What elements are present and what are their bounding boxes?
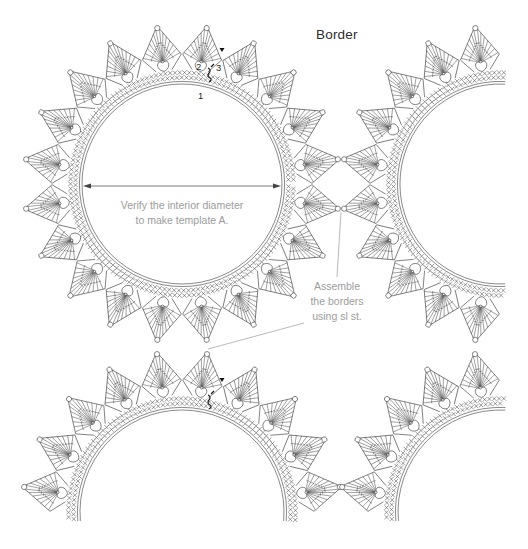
foundation-arc (79, 81, 284, 286)
treble-stitches (283, 223, 330, 271)
fan-spike (53, 383, 114, 444)
picot-loop (319, 252, 326, 259)
fan-spike (250, 383, 311, 444)
chain-loop (59, 196, 71, 209)
fan-spike (292, 182, 344, 228)
treble-stitches (183, 26, 225, 65)
picot-loop (106, 366, 113, 373)
picot-loop (291, 395, 298, 402)
treble-stitches (221, 36, 269, 83)
treble-stitches (24, 185, 63, 227)
picot-loop (354, 436, 361, 443)
picot-loop (383, 395, 390, 402)
picot-loop (107, 40, 114, 47)
diagram-title: Border (316, 27, 358, 43)
fan-spike (338, 139, 390, 185)
fan-spike (410, 32, 466, 91)
foundation-arc (397, 81, 505, 286)
treble-stitches (285, 423, 332, 472)
fan-spike (348, 94, 407, 150)
fan-spike (137, 22, 183, 74)
foundation-arc (82, 84, 282, 284)
chain-loop (475, 61, 488, 73)
spike-outline (217, 33, 273, 91)
chain-loop (194, 296, 207, 308)
spike-outline (409, 359, 465, 417)
treble-stitches (138, 352, 181, 391)
chain-loop (377, 196, 389, 209)
treble-stitches (412, 285, 460, 332)
crochet-chart (0, 0, 528, 549)
start-arrow-icon (220, 48, 225, 52)
chain-loop (475, 296, 488, 308)
chain-loop (157, 296, 170, 308)
single-crochet-rows (66, 396, 297, 522)
spike-outline (55, 57, 115, 117)
treble-stitches (303, 468, 342, 511)
fan-spike (92, 277, 148, 336)
chain-loop (294, 159, 306, 172)
picot-loop (290, 69, 297, 76)
spike-outline (31, 219, 89, 275)
ring-bottom-right-partial (336, 348, 505, 521)
assemble-borders-note: Assemble the borders using sl st. (287, 279, 387, 324)
picot-loop (67, 292, 74, 299)
fan-spike (275, 94, 334, 150)
fan-spike (20, 182, 72, 228)
fan-spike (137, 294, 183, 346)
slip-stitch-join-icon (208, 64, 214, 82)
treble-stitches (412, 36, 460, 83)
treble-stitches (94, 285, 142, 332)
spike-outline (249, 57, 309, 117)
fan-spike (293, 467, 345, 514)
treble-stitches (301, 185, 340, 227)
picot-loop (250, 40, 257, 47)
picot-loop (425, 321, 432, 328)
spike-outline (275, 219, 333, 275)
picot-loop (251, 366, 258, 373)
chain-loop (157, 387, 170, 399)
fan-spike (30, 94, 89, 150)
picot-loop (385, 69, 392, 76)
diameter-arrow (83, 184, 281, 189)
chain-loop (377, 159, 389, 172)
spike-outline (217, 359, 273, 417)
treble-stitches (32, 423, 79, 472)
fan-spike (28, 420, 87, 477)
picot-loop (425, 40, 432, 47)
spike-outline (410, 33, 466, 91)
fan-spike (137, 348, 184, 400)
treble-stitches (301, 141, 340, 183)
fan-spike (30, 218, 89, 274)
treble-stitches (283, 96, 330, 144)
picot-loop (319, 109, 326, 116)
foundation-arc (400, 84, 505, 284)
treble-stitches (22, 468, 61, 511)
treble-stitches (352, 96, 399, 144)
fan-spike (348, 218, 407, 274)
fan-spike (276, 420, 335, 477)
fan-spike (346, 420, 405, 477)
spike-outline (55, 251, 115, 311)
treble-stitches (342, 141, 381, 183)
treble-stitches (342, 185, 381, 227)
treble-stitches (34, 96, 81, 144)
treble-stitches (457, 303, 499, 342)
ring-bottom-left-partial (18, 348, 345, 522)
picot-loop (356, 252, 363, 259)
chain-loop (59, 159, 71, 172)
fan-spike (410, 277, 466, 336)
chain-loop (157, 61, 170, 73)
row-label-3: 3 (216, 62, 221, 73)
fan-spike (90, 358, 147, 417)
fan-spike (455, 348, 502, 400)
row-label-1: 1 (198, 90, 203, 101)
fan-spike (338, 182, 390, 228)
fan-spike (408, 358, 465, 417)
treble-stitches (457, 26, 499, 65)
fan-spike (455, 22, 501, 74)
treble-stitches (352, 223, 399, 271)
treble-stitches (34, 223, 81, 271)
treble-stitches (222, 362, 271, 409)
spike-outline (250, 383, 310, 443)
